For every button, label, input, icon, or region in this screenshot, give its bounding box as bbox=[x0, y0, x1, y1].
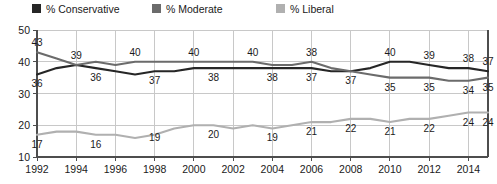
data-point-label: 35 bbox=[482, 82, 494, 93]
data-point-label: 16 bbox=[90, 139, 102, 150]
y-tick-label: 20 bbox=[18, 119, 30, 131]
data-point-label: 38 bbox=[463, 53, 475, 64]
series-line bbox=[37, 52, 488, 81]
data-point-label: 40 bbox=[129, 47, 141, 58]
data-point-label: 39 bbox=[71, 50, 83, 61]
chart-legend: % Conservative% Moderate% Liberal bbox=[32, 3, 334, 15]
x-tick-label: 2000 bbox=[182, 163, 206, 175]
y-tick-label: 40 bbox=[18, 56, 30, 68]
x-tick-label: 1992 bbox=[25, 163, 49, 175]
data-point-label: 19 bbox=[267, 132, 279, 143]
x-tick-label: 1994 bbox=[65, 163, 89, 175]
data-point-label: 38 bbox=[306, 47, 318, 58]
data-point-label: 40 bbox=[247, 47, 259, 58]
data-point-label: 36 bbox=[31, 78, 43, 89]
data-point-label: 37 bbox=[149, 75, 161, 86]
data-point-label: 36 bbox=[90, 72, 102, 83]
data-point-label: 38 bbox=[208, 72, 220, 83]
legend-item-label: % Moderate bbox=[166, 3, 223, 15]
y-axis-tick-labels: 1020304050 bbox=[18, 24, 30, 163]
y-tick-label: 50 bbox=[18, 24, 30, 36]
data-point-label: 43 bbox=[31, 37, 43, 48]
data-point-label: 24 bbox=[463, 117, 475, 128]
data-point-label: 21 bbox=[306, 126, 318, 137]
x-tick-label: 2004 bbox=[261, 163, 285, 175]
data-point-label: 20 bbox=[208, 129, 220, 140]
data-point-label: 38 bbox=[267, 72, 279, 83]
data-point-label: 35 bbox=[424, 82, 436, 93]
x-axis-tick-labels: 1992199419961998200020022004200620082010… bbox=[25, 163, 480, 175]
x-tick-label: 2012 bbox=[417, 163, 441, 175]
data-point-label: 22 bbox=[345, 123, 357, 134]
data-point-label: 37 bbox=[345, 75, 357, 86]
chart-canvas: % Conservative% Moderate% Liberal 102030… bbox=[0, 0, 497, 184]
legend-item-label: % Conservative bbox=[46, 3, 120, 15]
y-tick-label: 10 bbox=[18, 151, 30, 163]
x-tick-label: 1996 bbox=[104, 163, 128, 175]
gridlines bbox=[37, 30, 488, 157]
data-point-label: 19 bbox=[149, 132, 161, 143]
legend-swatch bbox=[32, 4, 41, 13]
x-tick-label: 2008 bbox=[339, 163, 363, 175]
legend-swatch bbox=[276, 4, 285, 13]
legend-swatch bbox=[152, 4, 161, 13]
data-point-label: 22 bbox=[424, 123, 436, 134]
data-point-label: 40 bbox=[384, 47, 396, 58]
data-point-label: 24 bbox=[482, 117, 494, 128]
data-point-label: 39 bbox=[424, 50, 436, 61]
data-point-label: 40 bbox=[188, 47, 200, 58]
data-point-label: 17 bbox=[31, 139, 43, 150]
ideology-trend-chart: % Conservative% Moderate% Liberal 102030… bbox=[0, 0, 497, 184]
data-point-label: 34 bbox=[463, 85, 475, 96]
data-point-label: 35 bbox=[384, 82, 396, 93]
x-tick-label: 2014 bbox=[457, 163, 481, 175]
x-tick-label: 2006 bbox=[300, 163, 324, 175]
data-point-label: 21 bbox=[384, 126, 396, 137]
data-point-label: 37 bbox=[306, 72, 318, 83]
x-tick-label: 1998 bbox=[143, 163, 167, 175]
x-tick-label: 2002 bbox=[221, 163, 245, 175]
y-tick-label: 30 bbox=[18, 88, 30, 100]
data-point-label: 37 bbox=[482, 56, 494, 67]
legend-item-label: % Liberal bbox=[290, 3, 334, 15]
x-tick-label: 2010 bbox=[378, 163, 402, 175]
